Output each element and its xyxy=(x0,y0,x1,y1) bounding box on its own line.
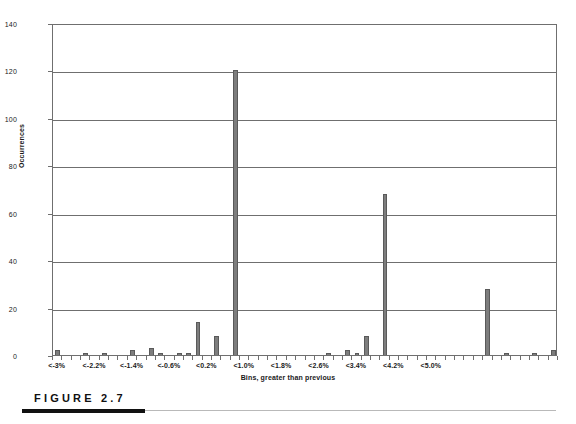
x-tick-mark xyxy=(192,356,193,360)
bar xyxy=(532,353,537,355)
bar xyxy=(196,322,201,355)
x-tick-mark xyxy=(127,356,128,360)
x-tick-mark xyxy=(230,356,231,360)
x-tick-mark xyxy=(445,356,446,360)
x-tick-label: <1.0% xyxy=(233,362,254,369)
x-tick-mark xyxy=(538,356,539,360)
x-tick-mark xyxy=(80,356,81,360)
x-tick-mark xyxy=(202,356,203,360)
x-tick-mark xyxy=(305,356,306,360)
caption-rule-dark xyxy=(22,409,145,413)
x-tick-mark xyxy=(258,356,259,360)
plot-area xyxy=(52,24,557,356)
caption-rule-light xyxy=(145,410,556,411)
x-tick-mark xyxy=(211,356,212,360)
x-tick-mark xyxy=(473,356,474,360)
x-tick-mark xyxy=(267,356,268,360)
y-tick-label: 20 xyxy=(0,305,17,312)
bar xyxy=(177,353,182,355)
y-tick-label: 120 xyxy=(0,68,17,75)
x-tick-mark xyxy=(351,356,352,360)
bar xyxy=(551,350,556,355)
x-tick-mark xyxy=(501,356,502,360)
x-tick-mark xyxy=(136,356,137,360)
x-tick-label: <4.2% xyxy=(383,362,404,369)
x-axis-title: Bins, greater than previous xyxy=(0,374,576,381)
x-tick-mark xyxy=(220,356,221,360)
x-tick-mark xyxy=(61,356,62,360)
x-tick-mark xyxy=(146,356,147,360)
x-tick-mark xyxy=(370,356,371,360)
bar xyxy=(55,350,60,355)
x-tick-mark xyxy=(417,356,418,360)
bar xyxy=(158,353,163,355)
x-tick-mark xyxy=(108,356,109,360)
x-tick-mark xyxy=(398,356,399,360)
y-tick-label: 40 xyxy=(0,258,17,265)
bar xyxy=(149,348,154,355)
bar xyxy=(102,353,107,355)
x-tick-mark xyxy=(454,356,455,360)
x-tick-label: <-0.6% xyxy=(157,362,180,369)
bar xyxy=(83,353,88,355)
x-tick-mark xyxy=(286,356,287,360)
x-tick-mark xyxy=(361,356,362,360)
x-tick-mark xyxy=(435,356,436,360)
x-tick-mark xyxy=(379,356,380,360)
x-tick-label: <5.0% xyxy=(420,362,441,369)
bar xyxy=(364,336,369,355)
bar xyxy=(345,350,350,355)
x-axis-ticks xyxy=(52,356,557,361)
x-tick-mark xyxy=(529,356,530,360)
x-tick-mark xyxy=(520,356,521,360)
x-tick-label: <-2.2% xyxy=(83,362,106,369)
x-tick-label: <2.6% xyxy=(308,362,329,369)
x-tick-mark xyxy=(482,356,483,360)
bar-series xyxy=(53,25,556,355)
bar xyxy=(504,353,509,355)
x-tick-mark xyxy=(71,356,72,360)
x-tick-mark xyxy=(389,356,390,360)
bar xyxy=(186,353,191,355)
x-tick-mark xyxy=(239,356,240,360)
x-tick-label: <1.8% xyxy=(271,362,292,369)
x-tick-label: <-3% xyxy=(48,362,65,369)
bar xyxy=(485,289,490,355)
x-tick-mark xyxy=(323,356,324,360)
y-tick-label: 140 xyxy=(0,21,17,28)
x-tick-mark xyxy=(342,356,343,360)
y-tick-label: 100 xyxy=(0,115,17,122)
figure-caption: FIGURE 2.7 xyxy=(34,392,126,404)
y-tick-label: 0 xyxy=(0,353,17,360)
x-tick-label: <3.4% xyxy=(346,362,367,369)
x-tick-mark xyxy=(276,356,277,360)
x-tick-mark xyxy=(117,356,118,360)
figure-page: Occurrences 020406080100120140 <-3%<-2.2… xyxy=(0,0,576,424)
x-tick-mark xyxy=(557,356,558,360)
y-tick-label: 80 xyxy=(0,163,17,170)
x-tick-mark xyxy=(248,356,249,360)
x-tick-mark xyxy=(333,356,334,360)
x-tick-mark xyxy=(174,356,175,360)
bar xyxy=(326,353,331,355)
bar xyxy=(233,70,238,355)
x-tick-mark xyxy=(426,356,427,360)
x-tick-mark xyxy=(314,356,315,360)
x-tick-mark xyxy=(99,356,100,360)
x-tick-mark xyxy=(510,356,511,360)
bar xyxy=(383,194,388,355)
x-tick-label: <-1.4% xyxy=(120,362,143,369)
bar xyxy=(355,353,360,355)
x-tick-mark xyxy=(52,356,53,360)
x-tick-mark xyxy=(155,356,156,360)
x-tick-mark xyxy=(492,356,493,360)
x-tick-mark xyxy=(548,356,549,360)
y-tick-label: 60 xyxy=(0,210,17,217)
x-tick-mark xyxy=(295,356,296,360)
bar xyxy=(214,336,219,355)
x-tick-label: <0.2% xyxy=(196,362,217,369)
y-axis-title: Occurrences xyxy=(18,124,25,168)
x-tick-mark xyxy=(164,356,165,360)
x-tick-mark xyxy=(183,356,184,360)
x-tick-mark xyxy=(407,356,408,360)
